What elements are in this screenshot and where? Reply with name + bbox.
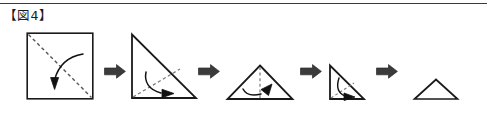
- step-4-small-right-triangle-with-fold: [328, 64, 366, 101]
- motion-arrow-right: [243, 84, 272, 96]
- step-3-isoceles-triangle-with-vertical-fold: [226, 64, 294, 101]
- right-arrow-icon: [376, 64, 398, 79]
- step-5-graphic: [413, 78, 459, 101]
- step-4-graphic: [328, 64, 366, 101]
- step-arrow-4: [376, 64, 398, 79]
- figure-panel: 【図4】: [0, 0, 487, 116]
- step-5-final-small-triangle: [413, 78, 459, 101]
- right-arrow-icon: [198, 64, 220, 79]
- step-arrow-2: [198, 64, 220, 79]
- origami-fold-sequence-diagram: [0, 0, 487, 116]
- right-triangle-outline: [132, 35, 196, 99]
- step-arrow-3: [300, 64, 322, 79]
- right-arrow-icon: [104, 64, 126, 79]
- right-arrow-icon: [300, 64, 322, 79]
- step-2-right-triangle-with-fold: [130, 33, 198, 100]
- final-triangle-outline: [415, 80, 458, 100]
- diagonal-fold-line: [29, 35, 92, 98]
- step-2-graphic: [130, 33, 198, 100]
- step-1-square-with-diagonal-fold: [26, 32, 94, 100]
- step-3-graphic: [226, 64, 294, 101]
- step-arrow-1: [104, 64, 126, 79]
- motion-arrow-right: [146, 72, 174, 98]
- step-1-graphic: [26, 32, 94, 100]
